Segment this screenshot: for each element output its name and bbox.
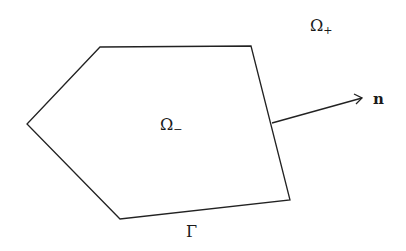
minus-subscript: − bbox=[173, 123, 182, 136]
domain-polygon bbox=[27, 46, 290, 219]
boundary-label: Γ bbox=[186, 224, 197, 240]
normal-vector-label: n bbox=[373, 92, 384, 107]
inside-region-label: Ω− bbox=[160, 117, 182, 133]
outside-region-label: Ω+ bbox=[310, 18, 332, 34]
omega-symbol: Ω bbox=[310, 16, 323, 35]
domain-diagram bbox=[0, 0, 406, 251]
normal-arrow-shaft bbox=[272, 98, 362, 123]
plus-subscript: + bbox=[323, 24, 332, 37]
omega-symbol: Ω bbox=[160, 115, 173, 134]
